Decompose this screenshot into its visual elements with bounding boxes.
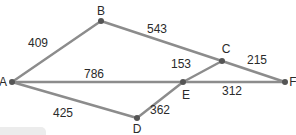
node-label-e: E [182, 88, 190, 102]
edge-weight-a-e: 786 [84, 67, 104, 81]
edge-weight-c-f: 215 [247, 53, 267, 67]
node-label-d: D [133, 122, 142, 135]
edge-weight-b-c: 543 [147, 22, 167, 36]
edge-weight-d-e: 362 [150, 103, 170, 117]
node-d [134, 115, 140, 121]
node-label-b: B [97, 4, 105, 18]
edge-weight-a-d: 425 [53, 106, 73, 120]
weighted-graph-diagram: 409543786153215312425362 ABCDEF [0, 0, 296, 135]
node-f [282, 79, 288, 85]
edge-weight-a-b: 409 [28, 36, 48, 50]
node-a [9, 79, 15, 85]
node-b [98, 18, 104, 24]
edge-weight-e-f: 312 [222, 84, 242, 98]
node-label-c: C [222, 42, 231, 56]
node-c [219, 58, 225, 64]
node-e [180, 79, 186, 85]
edge-a-d [12, 82, 137, 118]
node-label-a: A [0, 75, 7, 89]
node-label-f: F [289, 75, 296, 89]
edge-weight-e-c: 153 [171, 57, 191, 71]
